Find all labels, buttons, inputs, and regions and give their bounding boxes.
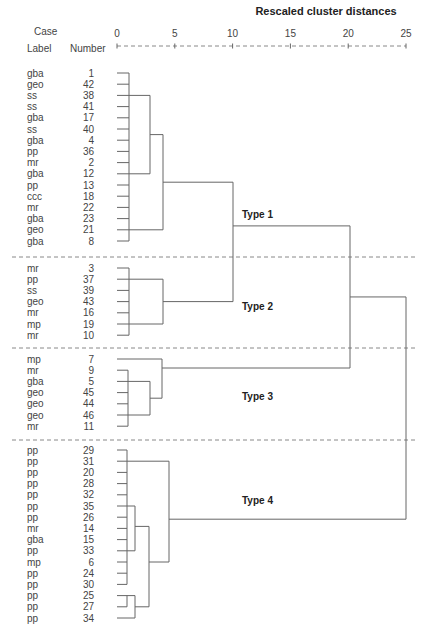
axis-tick-label: 0 xyxy=(114,28,120,39)
case-number: 21 xyxy=(83,224,95,235)
case-label: pp xyxy=(27,501,39,512)
case-label: mp xyxy=(27,354,41,365)
case-number: 34 xyxy=(83,613,95,624)
type-label: Type 2 xyxy=(242,301,273,312)
case-number: 44 xyxy=(83,398,95,409)
case-label: gba xyxy=(27,135,44,146)
case-number: 29 xyxy=(83,445,95,456)
case-label: mr xyxy=(27,307,39,318)
case-label: pp xyxy=(27,545,39,556)
case-label: geo xyxy=(27,224,44,235)
case-label: mr xyxy=(27,421,39,432)
case-label: geo xyxy=(27,387,44,398)
case-number: 23 xyxy=(83,213,95,224)
case-number: 46 xyxy=(83,410,95,421)
case-label: ss xyxy=(27,285,37,296)
case-number: 28 xyxy=(83,478,95,489)
axis-tick-label: 15 xyxy=(285,28,297,39)
case-number: 10 xyxy=(83,330,95,341)
case-label: mp xyxy=(27,557,41,568)
case-label: gba xyxy=(27,168,44,179)
case-number: 22 xyxy=(83,202,95,213)
case-number: 32 xyxy=(83,489,95,500)
case-label: pp xyxy=(27,590,39,601)
case-label: mr xyxy=(27,523,39,534)
case-label: gba xyxy=(27,376,44,387)
case-number: 11 xyxy=(84,421,95,432)
label-header: Label xyxy=(27,43,51,54)
case-number: 17 xyxy=(83,112,95,123)
case-label: gba xyxy=(27,112,44,123)
case-number: 26 xyxy=(83,512,95,523)
case-label: gba xyxy=(27,534,44,545)
chart-title: Rescaled cluster distances xyxy=(255,5,396,17)
case-number: 30 xyxy=(83,579,95,590)
case-number: 35 xyxy=(83,501,95,512)
case-label: pp xyxy=(27,146,39,157)
case-number: 39 xyxy=(83,285,95,296)
case-number: 2 xyxy=(88,157,94,168)
axis-tick-label: 5 xyxy=(172,28,178,39)
case-label: pp xyxy=(27,180,39,191)
case-number: 8 xyxy=(88,236,94,247)
case-label: gba xyxy=(27,236,44,247)
case-number: 13 xyxy=(83,180,95,191)
case-label: pp xyxy=(27,512,39,523)
dendrogram-chart: Rescaled cluster distances Case Label Nu… xyxy=(0,0,430,634)
case-label: gba xyxy=(27,68,44,79)
case-label: pp xyxy=(27,467,39,478)
case-number: 20 xyxy=(83,467,95,478)
case-number: 16 xyxy=(83,307,95,318)
case-label: pp xyxy=(27,478,39,489)
case-label: pp xyxy=(27,274,39,285)
case-label: mr xyxy=(27,157,39,168)
case-number: 1 xyxy=(88,68,94,79)
case-label: mr xyxy=(27,330,39,341)
case-number: 37 xyxy=(83,274,95,285)
case-number: 43 xyxy=(83,296,95,307)
case-number: 3 xyxy=(88,263,94,274)
case-number: 45 xyxy=(83,387,95,398)
case-label: ss xyxy=(27,90,37,101)
case-number: 27 xyxy=(83,601,95,612)
case-label: pp xyxy=(27,579,39,590)
case-label: mr xyxy=(27,202,39,213)
case-number: 18 xyxy=(83,191,95,202)
case-number: 6 xyxy=(88,557,94,568)
case-label: ss xyxy=(27,124,37,135)
case-number: 14 xyxy=(83,523,95,534)
dendrogram-lines xyxy=(12,73,418,618)
axis-tick-label: 10 xyxy=(227,28,239,39)
type-label: Type 3 xyxy=(242,391,273,402)
case-label: pp xyxy=(27,456,39,467)
case-number: 41 xyxy=(83,101,95,112)
case-label: geo xyxy=(27,296,44,307)
case-number: 40 xyxy=(83,124,95,135)
type-label: Type 4 xyxy=(242,495,273,506)
case-number: 9 xyxy=(88,365,94,376)
case-label: geo xyxy=(27,79,44,90)
case-number: 36 xyxy=(83,146,95,157)
case-number: 5 xyxy=(88,376,94,387)
case-label: ccc xyxy=(27,191,42,202)
number-header: Number xyxy=(70,43,106,54)
axis-tick-label: 25 xyxy=(400,28,412,39)
case-label: pp xyxy=(27,568,39,579)
case-label: ss xyxy=(27,101,37,112)
case-number: 7 xyxy=(88,354,94,365)
case-label: geo xyxy=(27,410,44,421)
type-label: Type 1 xyxy=(242,209,273,220)
case-number: 25 xyxy=(83,590,95,601)
case-label: pp xyxy=(27,445,39,456)
case-label: gba xyxy=(27,213,44,224)
type-labels: Type 1Type 2Type 3Type 4 xyxy=(242,209,273,506)
case-header: Case xyxy=(34,26,58,37)
case-number: 38 xyxy=(83,90,95,101)
case-number: 42 xyxy=(83,79,95,90)
case-label: pp xyxy=(27,489,39,500)
case-label: geo xyxy=(27,398,44,409)
case-number: 33 xyxy=(83,545,95,556)
case-number: 12 xyxy=(83,168,95,179)
axis-tick-label: 20 xyxy=(343,28,355,39)
case-label: pp xyxy=(27,601,39,612)
